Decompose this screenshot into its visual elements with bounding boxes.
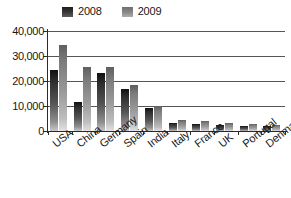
x-tick-mark-india <box>143 131 144 135</box>
x-tick-mark-uk <box>214 131 215 135</box>
x-axis-label-italy: Italy <box>169 128 192 149</box>
x-tick-mark-germany <box>95 131 96 135</box>
x-tick-mark-france <box>190 131 191 135</box>
x-tick-mark-portugal <box>238 131 239 135</box>
x-tick-mark-china <box>72 131 73 135</box>
x-tick-mark-spain <box>119 131 120 135</box>
x-axis-label-india: India <box>145 126 170 150</box>
x-tick-mark-denmark <box>261 131 262 135</box>
x-tick-mark-end <box>285 131 286 135</box>
x-tick-mark-usa <box>48 131 49 135</box>
x-tick-mark-italy <box>167 131 168 135</box>
bar-chart: 2008 2009 40,000 30,000 20,000 10,000 0 … <box>0 0 291 198</box>
x-axis-label-usa: USA <box>50 126 75 149</box>
x-axis-labels: USAChinaGermanySpainIndiaItalyFranceUKPo… <box>0 0 291 198</box>
x-axis-label-china: China <box>74 123 103 150</box>
